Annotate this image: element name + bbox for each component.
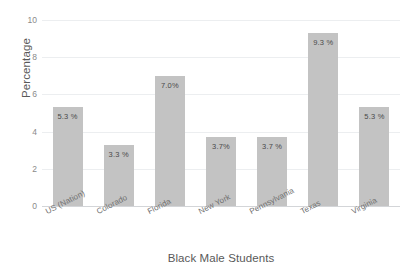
bars-layer: 5.3 %3.3 %7.0%3.7%3.7 %9.3 %5.3 % <box>42 20 400 206</box>
bar-slot: 7.0% <box>155 20 185 206</box>
y-tick-label: 0 <box>32 201 37 211</box>
y-axis-title: Percentage <box>20 8 32 128</box>
bar[interactable] <box>155 76 185 206</box>
bar-value-label: 3.3 % <box>109 150 129 159</box>
bar-value-label: 3.7 % <box>262 142 282 151</box>
bar-slot: 5.3 % <box>53 20 83 206</box>
bar-slot: 9.3 % <box>308 20 338 206</box>
bar-slot: 3.7 % <box>257 20 287 206</box>
bar-slot: 3.7% <box>206 20 236 206</box>
y-tick-label: 6 <box>32 89 37 99</box>
bar-value-label: 7.0% <box>161 81 179 90</box>
y-tick-label: 10 <box>28 15 37 25</box>
bar-chart: Percentage 0246810 5.3 %3.3 %7.0%3.7%3.7… <box>0 0 412 273</box>
bar-value-label: 5.3 % <box>364 112 384 121</box>
x-axis-title: Black Male Students <box>42 252 400 264</box>
y-tick-label: 8 <box>32 52 37 62</box>
bar[interactable] <box>359 107 389 206</box>
bar-slot: 3.3 % <box>104 20 134 206</box>
y-tick-label: 4 <box>32 127 37 137</box>
plot-area: 0246810 5.3 %3.3 %7.0%3.7%3.7 %9.3 %5.3 … <box>42 20 400 206</box>
y-tick-label: 2 <box>32 164 37 174</box>
bar-value-label: 5.3 % <box>57 112 77 121</box>
bar-slot: 5.3 % <box>359 20 389 206</box>
bar[interactable] <box>308 33 338 206</box>
x-axis-tick-labels: US (Nation)ColoradoFloridaNew YorkPennsy… <box>42 208 400 250</box>
bar-value-label: 3.7% <box>212 142 230 151</box>
bar-value-label: 9.3 % <box>313 38 333 47</box>
